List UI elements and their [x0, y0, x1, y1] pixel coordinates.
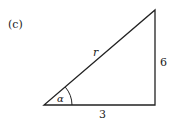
triangle	[44, 10, 155, 105]
vertical-side-label: 6	[160, 56, 167, 69]
horizontal-side-label: 3	[99, 108, 106, 121]
hypotenuse-label: r	[93, 46, 99, 59]
panel-label: (c)	[8, 18, 23, 31]
angle-label: α	[57, 93, 64, 104]
right-triangle-diagram: (c) r 6 3 α	[0, 0, 171, 123]
angle-arc	[65, 87, 72, 105]
